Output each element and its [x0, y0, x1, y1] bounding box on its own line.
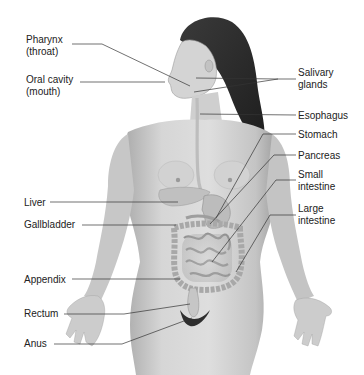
- label-large-intestine: Large intestine: [298, 203, 335, 227]
- label-gallbladder-text: Gallbladder: [24, 219, 75, 231]
- label-rectum-text: Rectum: [24, 308, 58, 320]
- label-appendix-text: Appendix: [24, 274, 66, 286]
- ear: [205, 60, 213, 72]
- label-pharynx: Pharynx (throat): [26, 34, 63, 58]
- neck: [190, 92, 222, 122]
- label-rectum: Rectum: [24, 308, 58, 320]
- left-arm: [84, 134, 134, 302]
- label-liver: Liver: [24, 197, 46, 209]
- label-stomach: Stomach: [298, 129, 337, 141]
- label-pancreas: Pancreas: [298, 150, 340, 162]
- breast-right: [214, 161, 250, 189]
- label-salivary-line1: Salivary: [298, 67, 334, 79]
- left-hand: [66, 295, 105, 346]
- label-large-intestine-line2: intestine: [298, 215, 335, 227]
- label-oral-cavity-line1: Oral cavity: [26, 74, 73, 86]
- label-stomach-text: Stomach: [298, 129, 337, 141]
- label-small-intestine-line1: Small: [298, 169, 335, 181]
- label-small-intestine-line2: intestine: [298, 181, 335, 193]
- label-oral-cavity: Oral cavity (mouth): [26, 74, 73, 98]
- label-esophagus: Esophagus: [298, 110, 348, 122]
- label-anus: Anus: [24, 338, 47, 350]
- label-gallbladder: Gallbladder: [24, 219, 75, 231]
- label-large-intestine-line1: Large: [298, 203, 335, 215]
- right-hand: [294, 298, 332, 346]
- rectum: [188, 288, 199, 317]
- breast-left: [158, 161, 194, 189]
- label-pharynx-line2: (throat): [26, 46, 63, 58]
- label-liver-text: Liver: [24, 197, 46, 209]
- label-appendix: Appendix: [24, 274, 66, 286]
- label-salivary-line2: glands: [298, 79, 334, 91]
- label-oral-cavity-line2: (mouth): [26, 86, 73, 98]
- label-small-intestine: Small intestine: [298, 169, 335, 193]
- label-pancreas-text: Pancreas: [298, 150, 340, 162]
- label-pharynx-line1: Pharynx: [26, 34, 63, 46]
- label-anus-text: Anus: [24, 338, 47, 350]
- label-salivary-glands: Salivary glands: [298, 67, 334, 91]
- label-esophagus-text: Esophagus: [298, 110, 348, 122]
